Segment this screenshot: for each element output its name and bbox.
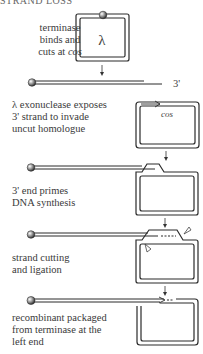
terminase-bead-icon [27,231,35,239]
recombination-diagram: λ 3' cos [0,0,203,354]
arrow-down-icon [164,151,168,161]
cut-marker-icon [145,244,151,252]
strand-cutting-step5 [27,227,198,283]
cos-site-label: cos [161,109,173,119]
linear-dna-step2 [28,79,162,87]
terminase-bead-icon [27,297,35,305]
arrow-down-icon [100,65,104,76]
terminase-bead-icon [99,11,107,19]
arrow-down-icon [163,286,167,296]
cut-marker-icon [184,227,191,234]
terminase-bead-icon [27,164,35,172]
recombinant-step6 [27,297,198,346]
d-loop-step4 [27,164,198,215]
lambda-glyph: λ [98,32,106,48]
three-prime-label: 3' [173,78,180,89]
terminase-bead-icon [28,79,36,87]
arrow-down-icon [163,218,167,228]
